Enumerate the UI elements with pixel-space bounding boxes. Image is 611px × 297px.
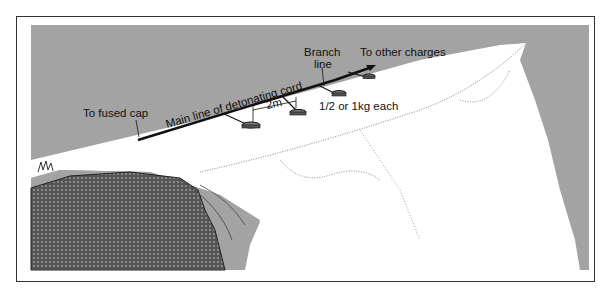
charge [242, 122, 260, 128]
diagram-illustration: To fused cap Main line of detonating cor… [0, 0, 611, 297]
label-other-charges: To other charges [360, 46, 446, 58]
charge [290, 109, 306, 115]
label-charge-weight: 1/2 or 1kg each [319, 100, 398, 112]
label-fused-cap: To fused cap [83, 107, 148, 119]
label-branch: Branch [304, 46, 340, 58]
label-branch-line: line [314, 58, 332, 70]
charge [332, 91, 346, 96]
charge [363, 74, 375, 79]
